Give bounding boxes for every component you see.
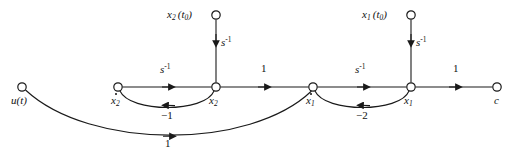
node-label-initial-condition-x1: x1 (t0) <box>362 9 387 22</box>
branch-label-minus-one: −1 <box>161 110 173 121</box>
node-initial-condition-x2[interactable] <box>212 11 220 19</box>
node-u[interactable] <box>18 83 26 91</box>
branch-label-s-inverse-x2: s-1 <box>160 63 171 75</box>
signal-flow-graph-figure: u(t) x2 x2 x1 x1 c x2 (t0) x1 (t0) s-1 1… <box>0 0 521 152</box>
node-label-x2: x2 <box>209 95 218 108</box>
branch-label-s-inverse-ic-x1: s-1 <box>416 36 427 48</box>
node-x2[interactable] <box>212 83 220 91</box>
node-label-u: u(t) <box>11 95 27 106</box>
branch-label-s-inverse-x1: s-1 <box>355 63 366 75</box>
node-x1-dot[interactable] <box>309 83 317 91</box>
branch-label-minus-two: −2 <box>356 110 368 121</box>
branch-label-unity-input: 1 <box>165 138 171 149</box>
edge-feedback-x2 <box>120 91 214 108</box>
node-initial-condition-x1[interactable] <box>407 11 415 19</box>
node-label-c: c <box>494 95 499 106</box>
node-label-initial-condition-x2: x2 (t0) <box>167 9 192 22</box>
edge-feedback-x1 <box>315 91 409 108</box>
node-label-x1-dot: x1 <box>306 95 315 108</box>
node-label-x2-dot: x2 <box>111 95 120 108</box>
node-label-x1: x1 <box>404 95 413 108</box>
branch-label-unity-x1-c: 1 <box>453 63 459 74</box>
branch-label-unity-x2-x1dot: 1 <box>261 63 267 74</box>
node-x1[interactable] <box>407 83 415 91</box>
branch-label-s-inverse-ic-x2: s-1 <box>221 36 232 48</box>
node-x2-dot[interactable] <box>114 83 122 91</box>
node-c[interactable] <box>493 83 501 91</box>
graph-canvas <box>0 0 521 152</box>
